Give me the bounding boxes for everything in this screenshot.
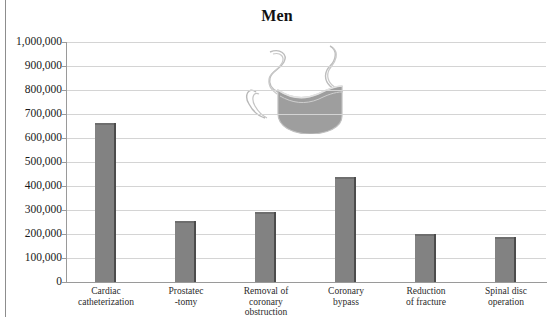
x-axis-category-label-line: Removal of [223, 286, 309, 297]
x-axis-category-label-line: -tomy [143, 297, 229, 308]
bar-top-edge [415, 234, 434, 236]
x-axis-line [66, 282, 547, 283]
gridline [66, 138, 546, 139]
bar [255, 212, 276, 282]
y-axis-tick-label: 0 [0, 276, 62, 287]
gridline [66, 258, 546, 259]
x-axis-category-label-line: of fracture [383, 297, 469, 308]
y-axis-tick-label: 100,000 [0, 252, 62, 263]
cut-off-text-above [150, 0, 410, 2]
y-axis-tick-labels: 1,000,000900,000800,000700,000600,000500… [0, 42, 62, 282]
bar [495, 237, 516, 282]
x-axis-category-label-line: bypass [303, 297, 389, 308]
y-axis-tick-label: 200,000 [0, 228, 62, 239]
surgical-mask-icon [226, 42, 356, 134]
gridline [66, 162, 546, 163]
x-axis-category-label-line: coronary [223, 297, 309, 308]
bar-top-edge [495, 237, 514, 239]
x-axis-category-label-line: Prostatec [143, 286, 229, 297]
bar-top-edge [95, 123, 114, 125]
bar [415, 234, 436, 282]
bar-top-edge [175, 221, 194, 223]
gridline [66, 234, 546, 235]
x-axis-category-label: Reductionof fracture [383, 286, 469, 307]
bar-chart: Men 1,000,000900,000800,000700,000600,00… [0, 0, 554, 317]
y-axis-tick-label: 400,000 [0, 180, 62, 191]
y-axis-tick-label: 300,000 [0, 204, 62, 215]
x-axis-category-label-line: obstruction [223, 307, 309, 317]
gridline [66, 42, 546, 43]
gridline [66, 90, 546, 91]
bar [335, 177, 356, 282]
x-axis-category-label-line: catheterization [63, 297, 149, 308]
y-axis-tick-label: 700,000 [0, 108, 62, 119]
x-axis-category-label-line: Coronary [303, 286, 389, 297]
y-axis-line [66, 42, 67, 283]
y-axis-tick-label: 1,000,000 [0, 36, 62, 47]
x-axis-category-label: Removal ofcoronaryobstruction [223, 286, 309, 317]
x-axis-category-label-line: Cardiac [63, 286, 149, 297]
x-axis-category-label-line: operation [463, 297, 549, 308]
y-axis-tick-label: 500,000 [0, 156, 62, 167]
bar-top-edge [335, 177, 354, 179]
x-axis-category-label: Prostatec-tomy [143, 286, 229, 307]
bar [95, 123, 116, 282]
y-axis-tick-label: 800,000 [0, 84, 62, 95]
bar [175, 221, 196, 282]
gridline [66, 186, 546, 187]
gridline [66, 114, 546, 115]
y-axis-tick-label: 900,000 [0, 60, 62, 71]
bar-top-edge [255, 212, 274, 214]
gridline [66, 66, 546, 67]
x-axis-category-label-line: Reduction [383, 286, 469, 297]
x-axis-category-label: Spinal discoperation [463, 286, 549, 307]
x-axis-category-label: Coronarybypass [303, 286, 389, 307]
plot-area [66, 42, 546, 282]
x-axis-category-label-line: Spinal disc [463, 286, 549, 297]
y-axis-tick-label: 600,000 [0, 132, 62, 143]
x-axis-category-label: Cardiaccatheterization [63, 286, 149, 307]
gridline [66, 210, 546, 211]
chart-title: Men [0, 7, 554, 25]
